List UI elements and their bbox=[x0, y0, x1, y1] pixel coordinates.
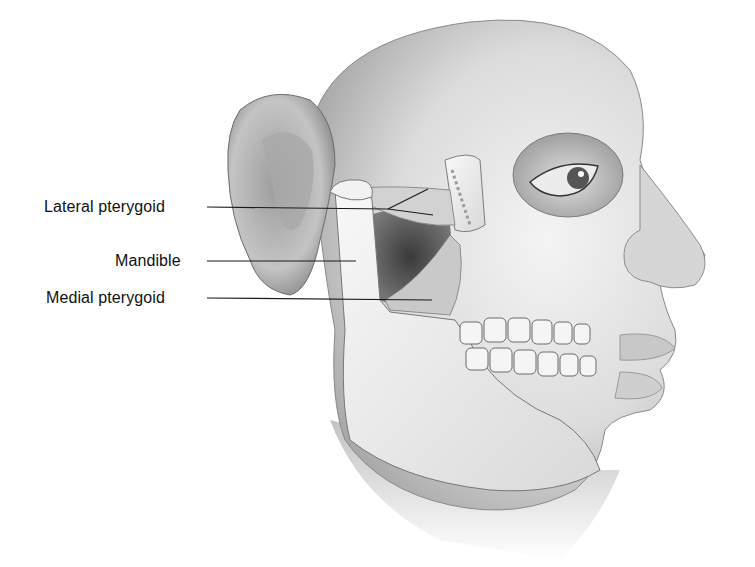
anatomy-diagram: Lateral pterygoid Mandible Medial pteryg… bbox=[0, 0, 755, 567]
label-medial-pterygoid: Medial pterygoid bbox=[46, 289, 165, 307]
head-illustration bbox=[0, 0, 755, 567]
label-lateral-pterygoid: Lateral pterygoid bbox=[44, 198, 165, 216]
label-mandible: Mandible bbox=[115, 252, 181, 270]
